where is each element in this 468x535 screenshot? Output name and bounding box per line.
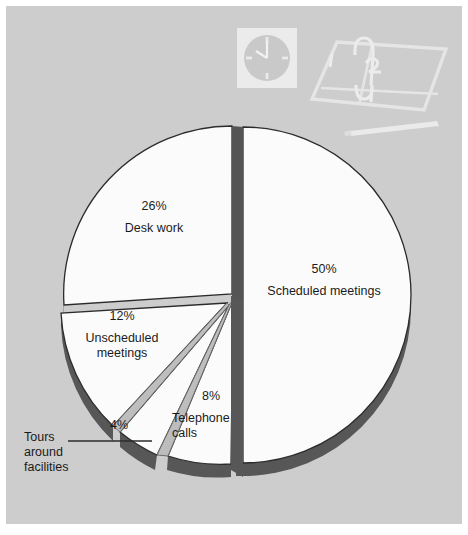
label-scheduled-meetings-name: Scheduled meetings	[256, 284, 392, 299]
wall-clock-icon	[237, 28, 297, 88]
label-telephone-calls-name-2: calls	[172, 426, 250, 441]
label-unscheduled-meetings: 12% Unscheduled meetings	[62, 309, 182, 361]
flipchart-table-icon	[312, 42, 446, 110]
decoration-group	[237, 28, 446, 136]
label-tours-around-facilities: Tours around facilities	[24, 430, 104, 475]
label-telephone-calls-percent: 8%	[172, 389, 250, 404]
label-tours-percent-wrap: 4%	[110, 418, 146, 433]
label-desk-work: 26% Desk work	[108, 199, 200, 236]
label-tours-percent: 4%	[110, 418, 146, 433]
label-unscheduled-meetings-name-1: Unscheduled	[62, 331, 182, 346]
label-scheduled-meetings-percent: 50%	[256, 262, 392, 277]
pen-icon	[344, 121, 439, 136]
label-scheduled-meetings: 50% Scheduled meetings	[256, 262, 392, 299]
label-tours-name-1: Tours	[24, 430, 104, 445]
label-desk-work-percent: 26%	[108, 199, 200, 214]
label-unscheduled-meetings-name-2: meetings	[62, 346, 182, 361]
figure-stage: 26% Desk work 50% Scheduled meetings 12%…	[0, 0, 468, 535]
label-telephone-calls-name-1: Telephone	[172, 411, 250, 426]
label-tours-name-3: facilities	[24, 460, 104, 475]
flipchart-label-1	[330, 54, 332, 67]
label-desk-work-name: Desk work	[108, 221, 200, 236]
label-unscheduled-meetings-percent: 12%	[62, 309, 182, 324]
label-tours-name-2: around	[24, 445, 104, 460]
label-telephone-calls: 8% Telephone calls	[172, 389, 250, 441]
